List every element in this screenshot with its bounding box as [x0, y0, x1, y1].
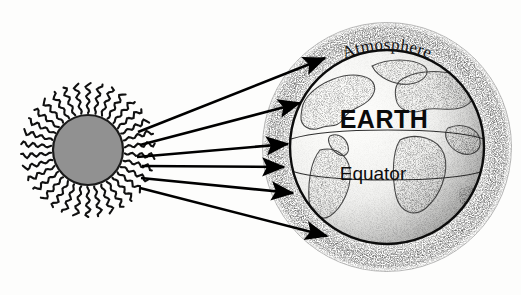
sun-ray — [86, 187, 91, 217]
sun-ray — [21, 153, 51, 158]
sun-ray — [86, 83, 91, 113]
sun-ray — [95, 85, 103, 114]
sun-disc — [53, 115, 123, 185]
earth-globe — [290, 50, 484, 244]
sunlight-ray-arrow — [142, 166, 284, 167]
sun-ray — [113, 102, 134, 123]
sun-earth-diagram: Atmosphere EARTH Equator — [0, 0, 521, 295]
sun-ray — [21, 142, 51, 148]
sun — [21, 83, 155, 217]
sun-ray — [74, 84, 82, 114]
diagram-canvas: Atmosphere EARTH Equator — [0, 0, 521, 295]
equator-label: Equator — [340, 163, 407, 184]
sun-ray — [94, 186, 102, 216]
earth-label: EARTH — [340, 105, 429, 133]
